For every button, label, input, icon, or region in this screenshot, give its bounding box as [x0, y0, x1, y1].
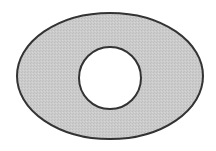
inner-hole-circle [79, 47, 141, 109]
diagram-canvas [0, 0, 216, 151]
